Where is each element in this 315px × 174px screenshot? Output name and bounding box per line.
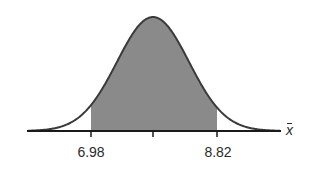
tick-label-right: 8.82 [204,144,231,160]
normal-curve-chart [0,0,315,174]
axis-label-xbar: x [286,122,293,138]
tick-label-left: 6.98 [77,144,104,160]
